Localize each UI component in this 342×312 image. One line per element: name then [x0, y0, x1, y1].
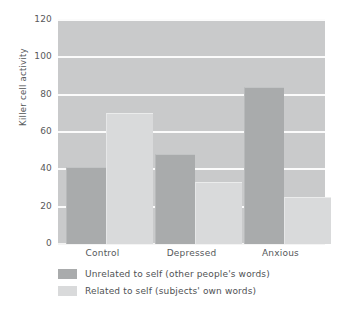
bar-depressed-series1: [195, 182, 242, 244]
x-tick-label-depressed: Depressed: [147, 248, 237, 258]
bar-chart-figure: Killer cell activity 020406080100120 Con…: [0, 0, 342, 312]
gridline-100: [58, 56, 325, 58]
legend: Unrelated to self (other people's words)…: [58, 266, 338, 300]
bar-depressed-series0: [155, 154, 195, 244]
y-tick-label: 20: [12, 201, 52, 211]
x-tick-label-control: Control: [58, 248, 148, 258]
bar-anxious-series0: [244, 87, 284, 244]
bar-control-series1: [106, 113, 153, 244]
gridline-60: [58, 131, 325, 133]
y-tick-label: 80: [12, 89, 52, 99]
y-tick-label: 100: [12, 51, 52, 61]
y-tick-label: 60: [12, 126, 52, 136]
gridline-120: [58, 19, 325, 21]
gridline-80: [58, 94, 325, 96]
legend-label: Unrelated to self (other people's words): [85, 269, 270, 279]
y-tick-label: 120: [12, 14, 52, 24]
y-tick-label: 0: [12, 238, 52, 248]
y-tick-label: 40: [12, 163, 52, 173]
x-tick-label-anxious: Anxious: [236, 248, 326, 258]
legend-label: Related to self (subjects' own words): [85, 286, 256, 296]
legend-item: Unrelated to self (other people's words): [58, 266, 338, 281]
legend-swatch-icon: [58, 286, 77, 296]
legend-item: Related to self (subjects' own words): [58, 283, 338, 298]
y-axis-label: Killer cell activity: [18, 7, 28, 167]
bar-control-series0: [66, 167, 106, 244]
plot-area: [58, 20, 325, 244]
bar-anxious-series1: [284, 197, 331, 244]
legend-swatch-icon: [58, 269, 77, 279]
